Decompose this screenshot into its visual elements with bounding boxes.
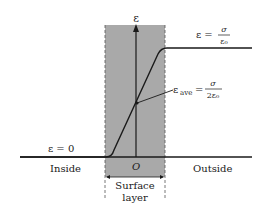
inside-label: Inside: [50, 163, 81, 174]
top-label-denominator: ε₀: [220, 37, 227, 46]
surface-layer-region: [105, 25, 165, 177]
avg-label-subscript: ave: [180, 89, 192, 97]
zero-label: ε = 0: [48, 143, 74, 154]
origin-label: O: [132, 161, 140, 172]
avg-label-numerator: σ: [210, 79, 216, 88]
avg-label-eq: =: [195, 84, 203, 95]
top-label-numerator: σ: [221, 25, 227, 34]
surface-label-line2: layer: [122, 192, 148, 203]
avg-label-denominator: 2ε₀: [207, 91, 219, 100]
axis-label: ε: [133, 12, 139, 25]
outside-label: Outside: [193, 163, 232, 174]
top-label-lhs: ε =: [196, 29, 213, 40]
avg-label-lhs: ε: [173, 84, 178, 95]
average-point: [135, 101, 138, 104]
surface-field-diagram: ε O ε = σ ε₀ ε ave = σ 2ε₀ ε = 0 Inside …: [0, 0, 267, 209]
surface-label-line1: Surface: [115, 180, 154, 191]
